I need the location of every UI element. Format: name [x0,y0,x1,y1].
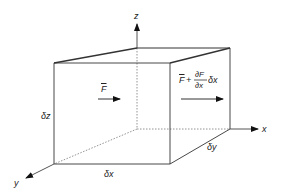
top-left-edge [54,48,137,63]
outlet-force-denominator: ∂x [195,82,203,90]
y-axis [26,164,54,178]
outlet-force-tail: δx [208,76,218,85]
outlet-force-numerator: ∂F [195,71,204,79]
z-axis-label: z [134,12,139,21]
outlet-force-plus: + [186,76,191,85]
y-axis-label: y [14,179,19,188]
x-axis-label: x [262,125,267,134]
hidden-edges [54,48,230,164]
dy-label: δy [207,143,217,152]
hidden-edge-depth [54,129,137,164]
outlet-force-base: F [179,76,185,85]
cube-edges [54,48,230,164]
control-volume-diagram [0,0,282,189]
bottom-right-edge [170,129,230,164]
dx-label: δx [104,170,114,179]
inlet-force-label: F [101,85,107,94]
dz-label: δz [41,112,51,121]
top-right-edge [170,48,230,63]
